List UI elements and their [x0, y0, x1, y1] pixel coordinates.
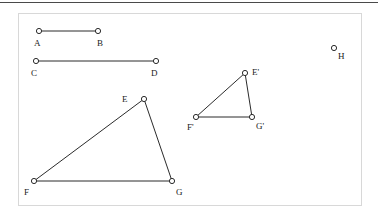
point-marker-B[interactable] — [95, 28, 100, 33]
segments-group — [34, 31, 252, 181]
point-label-A: A — [34, 39, 41, 48]
triangle-EpFpGp-side-EpFp — [196, 73, 245, 117]
point-label-B: B — [97, 39, 103, 48]
point-label-C: C — [31, 69, 37, 78]
point-marker-H[interactable] — [331, 45, 336, 50]
point-marker-F[interactable] — [31, 178, 36, 183]
point-marker-Fp[interactable] — [193, 114, 198, 119]
point-marker-Ep[interactable] — [242, 70, 247, 75]
point-label-F: F — [24, 188, 29, 197]
point-marker-Gp[interactable] — [249, 114, 254, 119]
point-label-G: G — [176, 188, 183, 197]
point-marker-A[interactable] — [36, 28, 41, 33]
point-marker-E[interactable] — [141, 96, 146, 101]
point-label-E: E — [122, 95, 128, 104]
triangle-EpFpGp-side-GpEp — [245, 73, 252, 117]
point-label-D: D — [151, 69, 158, 78]
point-label-Gp: G' — [256, 122, 264, 131]
point-label-Fp: F' — [187, 123, 194, 132]
point-marker-C[interactable] — [33, 58, 38, 63]
triangle-EFG-side-EF — [34, 99, 144, 181]
point-marker-D[interactable] — [153, 58, 158, 63]
triangle-EFG-side-GE — [144, 99, 172, 181]
point-marker-G[interactable] — [169, 178, 174, 183]
figure-canvas: ABCDEFGE'F'G'H — [0, 0, 378, 221]
point-markers-group — [31, 28, 336, 183]
point-label-Ep: E' — [252, 68, 259, 77]
point-label-H: H — [338, 52, 345, 61]
geometry-drawing — [0, 0, 378, 221]
